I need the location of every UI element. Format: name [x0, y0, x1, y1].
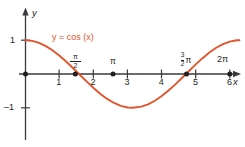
x-label-three-pi-over-2: 3 2 π — [176, 52, 196, 68]
x-axis-label: x — [233, 77, 238, 87]
x-tick-label-5: 5 — [193, 78, 198, 87]
x-tick-label-3: 3 — [125, 78, 130, 87]
pi-over-2-numerator: π — [70, 53, 81, 60]
pi-over-2-denominator: 2 — [70, 62, 81, 69]
three-halves-numerator: 3 — [181, 52, 185, 59]
cosine-graph-figure: y x y = cos (x) 1 –1 1 2 3 4 5 6 π 2 π 3… — [0, 0, 245, 147]
x-tick-label-4: 4 — [159, 78, 164, 87]
x-axis — [19, 71, 241, 77]
y-tick-label-minus-1: –1 — [4, 103, 14, 112]
x-label-pi: π — [110, 57, 116, 66]
x-label-pi-over-2: π 2 — [70, 53, 81, 70]
zero-at-three-pi-over-2 — [184, 72, 189, 77]
y-axis-label: y — [32, 8, 37, 18]
zero-at-pi-over-2 — [73, 72, 78, 77]
x-tick-label-6: 6 — [227, 78, 232, 87]
origin-point — [23, 72, 28, 77]
curve-equation-label: y = cos (x) — [52, 32, 94, 42]
y-tick-label-1: 1 — [10, 36, 15, 45]
x-tick-label-1: 1 — [56, 78, 61, 87]
three-halves-denominator: 2 — [181, 61, 185, 68]
point-at-pi — [111, 72, 116, 77]
x-label-two-pi: 2π — [217, 55, 228, 64]
three-halves-fraction: 3 2 — [181, 52, 185, 68]
plot-canvas — [0, 0, 245, 147]
point-at-two-pi — [227, 72, 232, 77]
pi-symbol: π — [185, 56, 191, 65]
x-tick-label-2: 2 — [91, 78, 96, 87]
